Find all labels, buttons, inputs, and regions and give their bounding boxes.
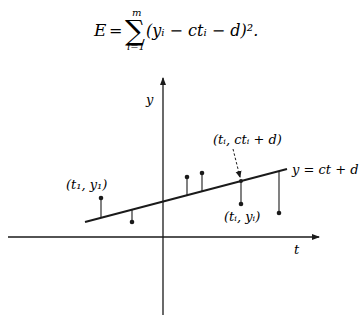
error-equation: E = ∑ m i=1 (yᵢ − ctᵢ − d)².: [93, 7, 258, 52]
data-point: [130, 220, 135, 225]
y-axis-label: y: [145, 92, 154, 107]
least-squares-figure: E = ∑ m i=1 (yᵢ − ctᵢ − d)². y t y = ct …: [0, 0, 361, 334]
first-point-label: (t₁, y₁): [66, 177, 107, 192]
data-point: [239, 202, 244, 207]
data-point: [99, 196, 104, 201]
equation-summand: (yᵢ − ctᵢ − d)².: [146, 21, 258, 40]
fitted-point: [239, 179, 243, 183]
fit-line-label: y = ct + d: [291, 162, 359, 177]
sum-lower-limit: i=1: [127, 41, 145, 52]
fitted-point-label: (tᵢ, ctᵢ + d): [213, 132, 282, 147]
dashed-pointer-arrow: [233, 149, 240, 177]
data-point: [277, 211, 282, 216]
ith-point-label: (tᵢ, yᵢ): [224, 209, 260, 224]
data-point: [200, 171, 205, 176]
t-axis-label: t: [294, 242, 300, 257]
equation-equals: =: [109, 21, 122, 40]
data-point: [185, 175, 190, 180]
sum-upper-limit: m: [132, 7, 141, 18]
equation-lhs: E: [93, 20, 107, 40]
